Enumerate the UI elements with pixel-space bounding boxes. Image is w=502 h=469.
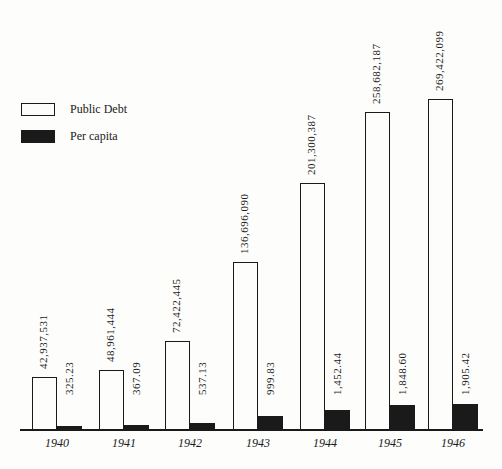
value-label-per-capita-1946: 1,905.42 <box>459 353 471 396</box>
value-label-per-capita-1942: 537.13 <box>196 362 208 395</box>
x-axis-line <box>20 429 483 431</box>
x-tick-label-1945: 1945 <box>360 436 420 451</box>
legend-swatch-per-capita <box>21 130 55 143</box>
bar-public-debt-1944 <box>300 183 325 430</box>
legend-swatch-public-debt <box>21 103 55 116</box>
value-label-public-debt-1946: 269,422,099 <box>433 31 445 92</box>
bar-public-debt-1943 <box>233 262 258 430</box>
bar-public-debt-1940 <box>32 377 57 430</box>
value-label-public-debt-1943: 136,696,090 <box>238 194 250 255</box>
bar-public-debt-1941 <box>99 370 124 430</box>
bar-public-debt-1942 <box>165 341 190 430</box>
value-label-per-capita-1940: 325.23 <box>63 362 75 395</box>
legend-label-per-capita: Per capita <box>70 129 118 144</box>
x-tick-label-1940: 1940 <box>27 436 87 451</box>
value-label-per-capita-1945: 1,848.60 <box>396 353 408 396</box>
bar-public-debt-1945 <box>365 112 390 430</box>
x-tick-label-1946: 1946 <box>423 436 483 451</box>
bar-public-debt-1946 <box>428 99 453 430</box>
x-tick-label-1942: 1942 <box>160 436 220 451</box>
value-label-per-capita-1944: 1,452.44 <box>331 353 343 396</box>
x-tick-label-1943: 1943 <box>228 436 288 451</box>
bar-per-capita-1946 <box>453 404 478 430</box>
bar-per-capita-1943 <box>258 416 283 430</box>
value-label-public-debt-1944: 201,300,387 <box>305 114 317 175</box>
value-label-public-debt-1940: 42,937,531 <box>37 315 49 370</box>
value-label-public-debt-1941: 48,961,444 <box>104 307 116 362</box>
value-label-public-debt-1945: 258,682,187 <box>370 44 382 105</box>
value-label-public-debt-1942: 72,422,445 <box>170 279 182 334</box>
x-tick-label-1944: 1944 <box>295 436 355 451</box>
value-label-per-capita-1943: 999.83 <box>264 362 276 395</box>
bar-chart: Public Debt Per capita 42,937,531325.231… <box>0 0 502 469</box>
legend-label-public-debt: Public Debt <box>70 102 127 117</box>
bar-per-capita-1945 <box>390 405 415 430</box>
x-tick-label-1941: 1941 <box>94 436 154 451</box>
value-label-per-capita-1941: 367.09 <box>130 362 142 395</box>
bar-per-capita-1944 <box>325 410 350 430</box>
